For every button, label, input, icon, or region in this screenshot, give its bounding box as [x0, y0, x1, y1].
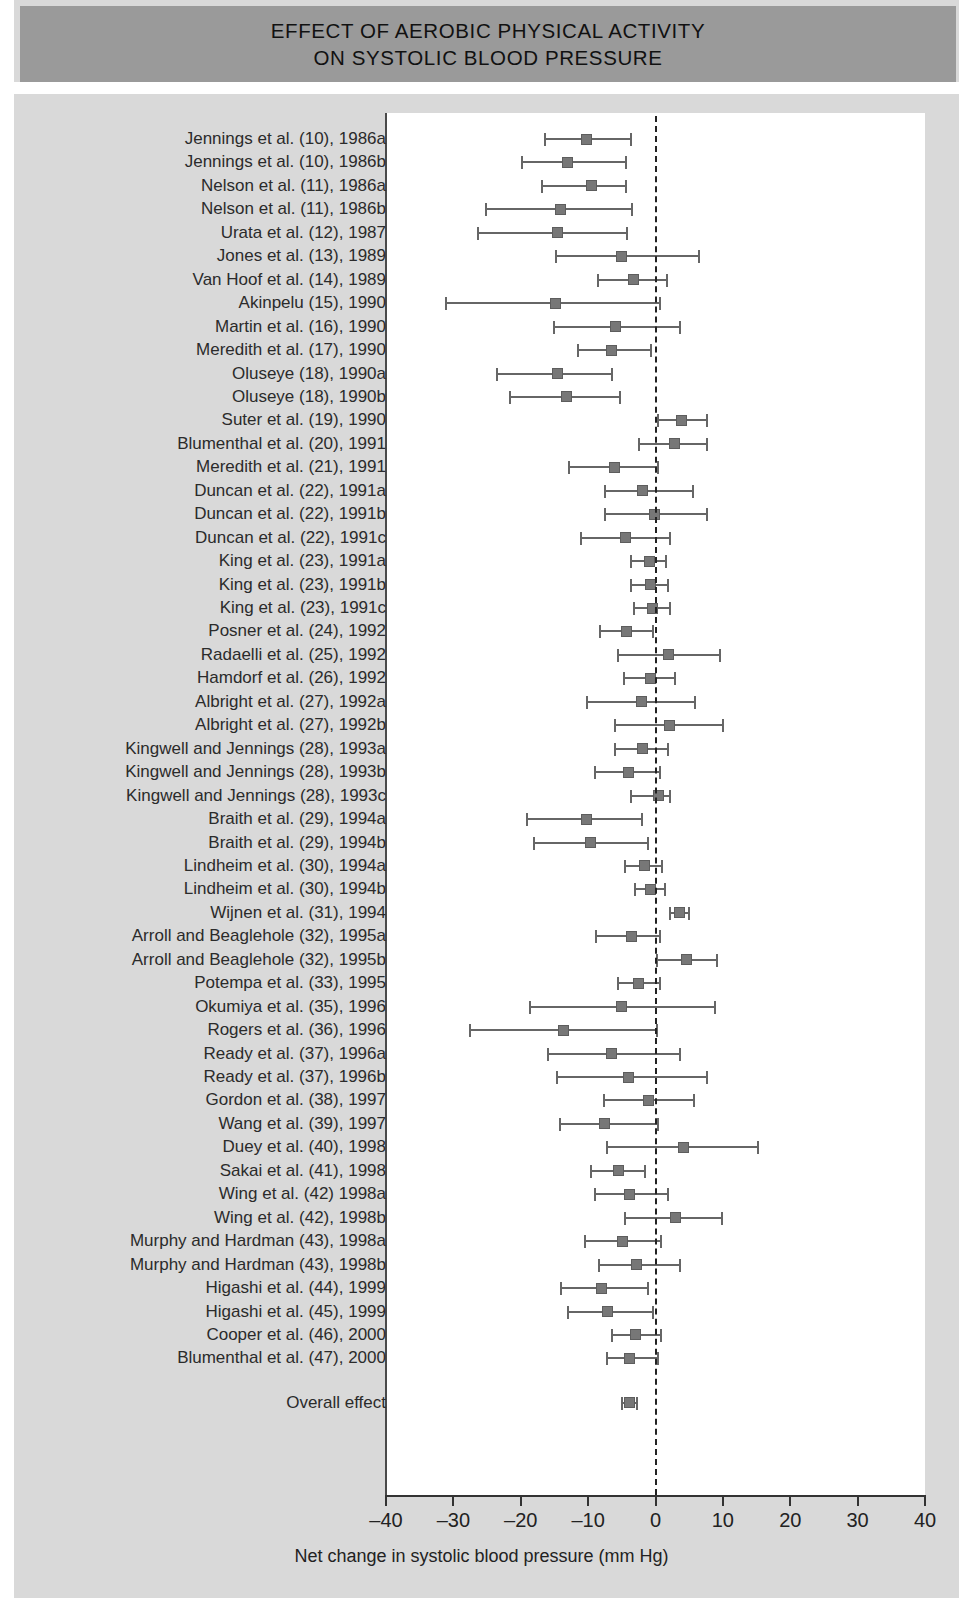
effect-marker-18 — [644, 556, 655, 567]
zero-reference-line — [655, 116, 657, 1495]
confidence-interval-cap-low — [597, 274, 599, 287]
confidence-interval-cap-low — [598, 1259, 600, 1272]
confidence-interval-cap-high — [664, 883, 666, 896]
x-axis-tick — [452, 1495, 454, 1506]
confidence-interval-cap-high — [619, 391, 621, 404]
figure-title-line-2: ON SYSTOLIC BLOOD PRESSURE — [313, 44, 662, 71]
confidence-interval-cap-high — [625, 156, 627, 169]
study-label-36: Potempa et al. (33), 1995 — [194, 974, 386, 992]
study-label-26: Kingwell and Jennings (28), 1993a — [125, 740, 386, 758]
x-axis-tick — [385, 1495, 387, 1506]
confidence-interval-cap-high — [661, 860, 663, 873]
confidence-interval-cap-low — [634, 883, 636, 896]
confidence-interval-cap-low — [630, 579, 632, 592]
effect-marker-15 — [637, 485, 648, 496]
confidence-interval-cap-low — [599, 625, 601, 638]
confidence-interval-cap-low — [630, 555, 632, 568]
effect-marker-52 — [624, 1353, 635, 1364]
x-axis-title: Net change in systolic blood pressure (m… — [0, 1546, 963, 1567]
effect-marker-1 — [562, 157, 573, 168]
confidence-interval-cap-high — [669, 602, 671, 615]
study-label-37: Okumiya et al. (35), 1996 — [195, 998, 386, 1016]
confidence-interval-cap-low — [617, 977, 619, 990]
effect-marker-4 — [552, 227, 563, 238]
confidence-interval-cap-low — [594, 766, 596, 779]
confidence-interval-cap-high — [706, 508, 708, 521]
confidence-interval-cap-low — [606, 1141, 608, 1154]
effect-marker-39 — [606, 1048, 617, 1059]
study-label-0: Jennings et al. (10), 1986a — [185, 130, 386, 148]
confidence-interval-cap-high — [659, 930, 661, 943]
confidence-interval-cap-high — [644, 1165, 646, 1178]
confidence-interval-cap-low — [553, 321, 555, 334]
effect-marker-24 — [636, 696, 647, 707]
confidence-interval-cap-low — [529, 1001, 531, 1014]
confidence-interval-cap-high — [660, 1235, 662, 1248]
effect-marker-42 — [599, 1118, 610, 1129]
effect-marker-13 — [669, 438, 680, 449]
figure-title-band: EFFECT OF AEROBIC PHYSICAL ACTIVITY ON S… — [20, 6, 956, 82]
confidence-interval-cap-high — [719, 649, 721, 662]
effect-marker-9 — [606, 345, 617, 356]
effect-marker-8 — [610, 321, 621, 332]
confidence-interval-cap-low — [623, 672, 625, 685]
effect-marker-51 — [630, 1329, 641, 1340]
confidence-interval-cap-high — [647, 837, 649, 850]
figure-title-line-1: EFFECT OF AEROBIC PHYSICAL ACTIVITY — [271, 17, 706, 44]
confidence-interval-cap-low — [445, 297, 447, 310]
confidence-interval-cap-low — [606, 1352, 608, 1365]
x-axis-tick — [857, 1495, 859, 1506]
confidence-interval-cap-high — [706, 1071, 708, 1084]
effect-marker-47 — [617, 1236, 628, 1247]
study-label-38: Rogers et al. (36), 1996 — [207, 1021, 386, 1039]
effect-marker-22 — [663, 649, 674, 660]
effect-marker-6 — [628, 274, 639, 285]
confidence-interval-cap-low — [638, 438, 640, 451]
confidence-interval-cap-low — [547, 1048, 549, 1061]
page-left-margin — [0, 0, 14, 1598]
confidence-interval-line — [522, 161, 626, 163]
confidence-interval-cap-high — [757, 1141, 759, 1154]
x-axis-tick — [722, 1495, 724, 1506]
confidence-interval-cap-low — [669, 907, 671, 920]
study-label-6: Van Hoof et al. (14), 1989 — [193, 271, 386, 289]
confidence-interval-cap-low — [577, 344, 579, 357]
effect-marker-17 — [620, 532, 631, 543]
confidence-interval-cap-high — [657, 461, 659, 474]
study-label-17: Duncan et al. (22), 1991c — [195, 529, 386, 547]
confidence-interval-cap-low — [544, 133, 546, 146]
study-label-42: Wang et al. (39), 1997 — [218, 1115, 386, 1133]
study-label-32: Lindheim et al. (30), 1994b — [184, 880, 386, 898]
study-label-29: Braith et al. (29), 1994a — [208, 810, 386, 828]
study-label-14: Meredith et al. (21), 1991 — [196, 458, 386, 476]
x-axis-tick-label: –20 — [504, 1509, 537, 1532]
effect-marker-50 — [602, 1306, 613, 1317]
confidence-interval-cap-high — [666, 274, 668, 287]
confidence-interval-cap-high — [669, 532, 671, 545]
study-label-22: Radaelli et al. (25), 1992 — [201, 646, 386, 664]
study-label-12: Suter et al. (19), 1990 — [222, 411, 386, 429]
effect-marker-43 — [678, 1142, 689, 1153]
confidence-interval-cap-high — [721, 1212, 723, 1225]
effect-marker-29 — [581, 814, 592, 825]
study-label-46: Wing et al. (42), 1998b — [214, 1209, 386, 1227]
x-axis-tick-label: 0 — [650, 1509, 661, 1532]
study-label-49: Higashi et al. (44), 1999 — [206, 1279, 387, 1297]
x-axis-tick — [789, 1495, 791, 1506]
study-label-18: King et al. (23), 1991a — [219, 552, 386, 570]
study-label-34: Arroll and Beaglehole (32), 1995a — [132, 927, 386, 945]
confidence-interval-cap-low — [624, 860, 626, 873]
confidence-interval-cap-low — [533, 837, 535, 850]
study-label-47: Murphy and Hardman (43), 1998a — [130, 1232, 386, 1250]
confidence-interval-cap-high — [667, 579, 669, 592]
effect-marker-33 — [674, 907, 685, 918]
study-label-24: Albright et al. (27), 1992a — [195, 693, 386, 711]
effect-marker-44 — [613, 1165, 624, 1176]
confidence-interval-cap-low — [477, 227, 479, 240]
effect-marker-38 — [558, 1025, 569, 1036]
confidence-interval-cap-high — [659, 766, 661, 779]
study-label-5: Jones et al. (13), 1989 — [217, 247, 386, 265]
study-label-21: Posner et al. (24), 1992 — [208, 622, 386, 640]
study-label-50: Higashi et al. (45), 1999 — [206, 1303, 387, 1321]
study-label-25: Albright et al. (27), 1992b — [195, 716, 386, 734]
